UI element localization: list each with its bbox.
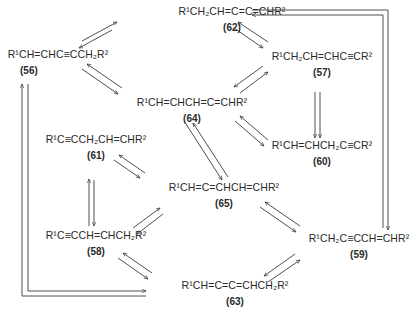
formula-63: R¹CH=C=C=CHCH₂R²: [160, 279, 310, 291]
compound-62: R¹CH₂CH=C=C=CHR² (62): [152, 5, 312, 33]
label-61: (61): [36, 150, 156, 161]
equilibrium-arrow-57-60: [315, 92, 320, 138]
equilibrium-arrow-64-65: [186, 123, 228, 180]
compound-61: R¹C≡CCH₂CH=CHR² (61): [36, 133, 156, 161]
compound-56: R¹CH=CHC≡CCH₂R² (56): [2, 48, 114, 76]
formula-57: R¹CH₂CH=CHC≡CR²: [262, 50, 382, 62]
label-58: (58): [36, 246, 156, 257]
compound-59: R¹CH₂C≡CCH=CHR² (59): [300, 232, 418, 260]
equilibrium-arrow-56-62: [79, 22, 117, 48]
equilibrium-arrow-61-58: [89, 179, 94, 226]
formula-61: R¹C≡CCH₂CH=CHR²: [36, 133, 156, 145]
compound-57: R¹CH₂CH=CHC≡CR² (57): [262, 50, 382, 78]
formula-58: R¹C≡CCH=CHCH₂R²: [36, 229, 156, 241]
label-64: (64): [122, 113, 262, 124]
formula-60: R¹CH=CHCH₂C≡CR²: [262, 139, 382, 151]
compound-64: R¹CH=CHCH=C=CHR² (64): [122, 96, 262, 124]
label-65: (65): [154, 198, 294, 209]
formula-65: R¹CH=C=CHCH=CHR²: [154, 181, 294, 193]
formula-62: R¹CH₂CH=C=C=CHR²: [152, 5, 312, 17]
label-62: (62): [152, 22, 312, 33]
compound-63: R¹CH=C=C=CHCH₂R² (63): [160, 279, 310, 307]
compound-60: R¹CH=CHCH₂C≡CR² (60): [262, 139, 382, 167]
label-56: (56): [2, 65, 114, 76]
label-59: (59): [300, 249, 418, 260]
label-63: (63): [160, 296, 310, 307]
compound-65: R¹CH=C=CHCH=CHR² (65): [154, 181, 294, 209]
label-60: (60): [262, 156, 382, 167]
formula-59: R¹CH₂C≡CCH=CHR²: [300, 232, 418, 244]
formula-56: R¹CH=CHC≡CCH₂R²: [2, 48, 114, 60]
formula-64: R¹CH=CHCH=C=CHR²: [122, 96, 262, 108]
compound-58: R¹C≡CCH=CHCH₂R² (58): [36, 229, 156, 257]
equilibrium-arrow-59-63: [264, 254, 300, 282]
label-57: (57): [262, 67, 382, 78]
